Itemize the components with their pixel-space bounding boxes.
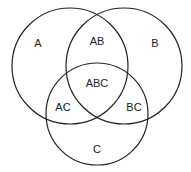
region-label-abc: ABC <box>86 77 109 89</box>
circle-b <box>66 8 182 124</box>
region-label-a: A <box>34 37 42 49</box>
region-label-c: C <box>93 143 101 155</box>
region-label-ac: AC <box>55 101 70 113</box>
venn-diagram: A B AB ABC AC BC C <box>0 0 191 172</box>
region-label-b: B <box>151 37 158 49</box>
region-label-ab: AB <box>90 35 105 47</box>
region-label-bc: BC <box>126 101 141 113</box>
